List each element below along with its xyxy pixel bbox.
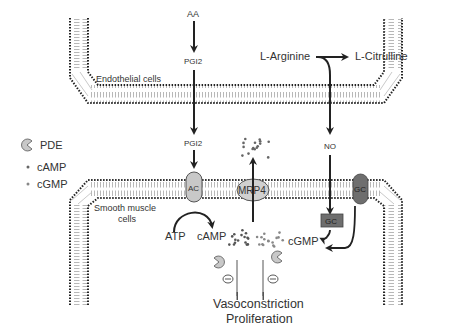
sgc-label: GC (325, 217, 337, 226)
no-label: NO (324, 142, 336, 151)
mgc-label: GC (354, 185, 366, 194)
outcome-line1: Vasoconstriction (213, 297, 304, 311)
signaling-diagram: Endothelial cells Smooth muscle cells PD… (0, 0, 469, 336)
molecule-dot (241, 229, 244, 232)
molecule-dot (242, 146, 245, 149)
pde-camp-icon (214, 256, 224, 268)
l-citrulline-label: L-Citrulline (355, 50, 408, 62)
molecule-dot (231, 235, 234, 238)
molecule-dot (244, 241, 247, 244)
pde-legend-icon (22, 139, 32, 151)
ac-protein: AC (186, 172, 202, 202)
molecule-dot (242, 142, 245, 145)
membrane-gc: GC (353, 174, 368, 204)
cgmp-inhibition-symbol (268, 275, 278, 283)
molecule-dot (267, 141, 270, 144)
molecule-dot (243, 236, 246, 239)
extruded-nucleotides (241, 138, 270, 159)
molecule-dot (260, 236, 263, 239)
molecule-dot (263, 238, 266, 241)
molecule-dot (241, 154, 244, 157)
camp-label: cAMP (197, 230, 226, 242)
l-arginine-label: L-Arginine (260, 50, 310, 62)
cgmp-label: cGMP (288, 235, 319, 247)
molecule-dot (281, 239, 284, 242)
molecule-dot (247, 237, 250, 240)
smooth-muscle-label-line2: cells (118, 214, 137, 224)
endothelial-membrane (70, 18, 402, 103)
camp-pool (228, 229, 250, 246)
molecule-dot (240, 234, 243, 237)
legend-pde-label: PDE (40, 139, 63, 151)
camp-inhibition-symbol (223, 275, 233, 283)
molecule-dot (263, 232, 266, 235)
legend-camp-label: cAMP (37, 161, 66, 173)
sgc-to-cgmp-arrow (322, 230, 330, 239)
ac-label: AC (188, 184, 199, 193)
molecule-dot (256, 236, 259, 239)
molecule-dot (234, 238, 237, 241)
molecule-dot (255, 146, 258, 149)
molecule-dot (262, 244, 265, 247)
aa-label: AA (187, 9, 199, 19)
soluble-gc: GC (321, 214, 343, 227)
endothelial-cells-label: Endothelial cells (96, 74, 162, 84)
pde-cgmp-icon (272, 251, 282, 263)
molecule-dot (278, 231, 281, 234)
molecule-dot (275, 237, 278, 240)
molecule-dot (237, 239, 240, 242)
molecule-dot (247, 152, 250, 155)
cgmp-pool (256, 231, 284, 248)
molecule-dot (251, 148, 254, 151)
molecule-dot (267, 239, 270, 242)
molecule-dot (244, 138, 247, 141)
camp-legend-dot (27, 166, 30, 169)
legend: PDE cAMP cGMP (22, 139, 68, 190)
outcome-line2: Proliferation (226, 312, 293, 326)
molecule-dot (271, 241, 274, 244)
pgi2-bottom-label: PGI2 (184, 139, 203, 148)
atp-label: ATP (165, 230, 186, 242)
molecule-dot (254, 141, 257, 144)
molecule-dot (259, 142, 262, 145)
molecule-dot (228, 243, 231, 246)
molecule-dot (272, 244, 275, 247)
molecule-dot (233, 243, 236, 246)
smooth-muscle-label-line1: Smooth muscle (94, 203, 156, 213)
molecule-dot (258, 243, 261, 246)
legend-cgmp-label: cGMP (37, 178, 68, 190)
pgi2-top-label: PGI2 (184, 57, 203, 66)
molecule-dot (233, 233, 236, 236)
cgmp-legend-dot (27, 183, 30, 186)
molecule-dot (267, 156, 270, 159)
molecule-dot (259, 140, 262, 143)
molecule-dot (245, 232, 248, 235)
